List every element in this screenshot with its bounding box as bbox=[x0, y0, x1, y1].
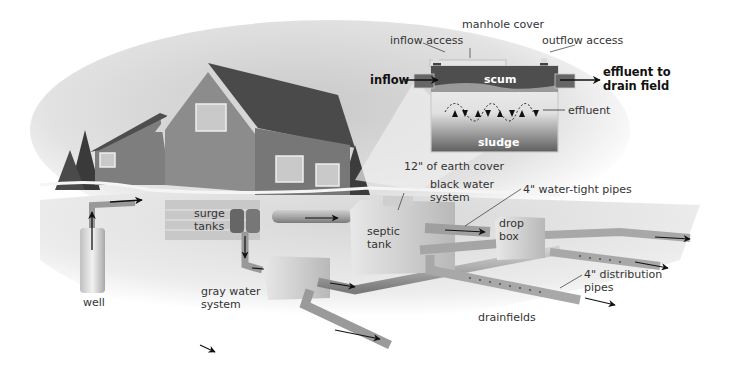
septic-tank-label-1: septic bbox=[367, 225, 400, 238]
inflow-access-label: inflow access bbox=[390, 34, 463, 47]
black-water-label-1: black water bbox=[430, 178, 494, 191]
septic-tank-label-2: tank bbox=[367, 238, 391, 251]
gray-water-label-2: system bbox=[201, 298, 241, 311]
effluent-to-drain-field-label-1: effluent to bbox=[603, 66, 671, 79]
drop-box-label-1: drop bbox=[499, 217, 524, 230]
earth-cover-label: 12" of earth cover bbox=[404, 160, 504, 173]
well-label: well bbox=[83, 296, 105, 309]
outflow-access-label: outflow access bbox=[542, 34, 623, 47]
drainfields-label: drainfields bbox=[478, 311, 536, 324]
inflow-label: inflow bbox=[370, 74, 409, 87]
sludge-label: sludge bbox=[478, 136, 519, 149]
surge-tanks-label-2: tanks bbox=[194, 220, 224, 233]
black-water-label-2: system bbox=[430, 191, 470, 204]
distribution-pipes-label-2: pipes bbox=[584, 281, 614, 294]
surge-tanks-label-1: surge bbox=[194, 207, 225, 220]
gray-water-label-1: gray water bbox=[201, 285, 261, 298]
manhole-cover-label: manhole cover bbox=[462, 18, 544, 31]
water-tight-pipes-label: 4" water-tight pipes bbox=[523, 183, 632, 196]
drop-box-label-2: box bbox=[499, 230, 519, 243]
effluent-label: effluent bbox=[568, 104, 610, 117]
effluent-to-drain-field-label-2: drain field bbox=[603, 80, 669, 93]
scum-label: scum bbox=[484, 73, 516, 86]
distribution-pipes-label-1: 4" distribution bbox=[584, 268, 662, 281]
septic-diagram: manhole cover inflow access outflow acce… bbox=[0, 0, 733, 365]
